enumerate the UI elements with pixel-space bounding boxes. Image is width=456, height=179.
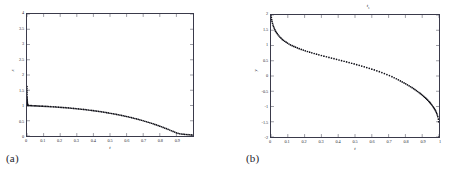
x-tick-label: 0.2: [301, 140, 306, 144]
x-tick-label: 0: [269, 140, 271, 144]
y-tick-label: 0.5: [256, 58, 268, 62]
x-tick-label: 0.1: [40, 139, 45, 143]
x-tick-label: 0.6: [369, 140, 374, 144]
x-axis-label-b: t: [354, 146, 355, 151]
scatter-plot-a: [27, 14, 193, 136]
x-tick-label: 0.3: [318, 140, 323, 144]
y-tick-label: 4: [12, 11, 24, 15]
plot-title-subscript: s: [368, 6, 369, 10]
plot-title-b: ts: [367, 3, 370, 10]
x-tick-label: 0.9: [175, 139, 180, 143]
y-axis-label-b: y: [253, 69, 258, 71]
x-tick-label: 0.7: [386, 140, 391, 144]
panel-caption-a: (a): [6, 152, 19, 164]
y-tick-label: 1: [12, 104, 24, 108]
x-tick-label: 0.4: [335, 140, 340, 144]
panel-caption-b: (b): [246, 152, 259, 164]
x-tick-label: 0.8: [403, 140, 408, 144]
y-tick-label: 3.5: [12, 26, 24, 30]
x-tick-label: 0.3: [74, 139, 79, 143]
x-tick-label: 0.9: [420, 140, 425, 144]
y-tick-label: 1.5: [12, 88, 24, 92]
figure-two-panel: x t (a) 00.10.20.30.40.50.60.70.80.900.5…: [0, 0, 456, 179]
x-axis-label-a: t: [109, 145, 110, 150]
y-tick-label: 2: [12, 73, 24, 77]
y-tick-label: -2: [256, 136, 268, 140]
plot-area-a: [26, 13, 194, 137]
y-tick-label: 0: [12, 135, 24, 139]
x-tick-label: 0.8: [158, 139, 163, 143]
panel-a: x t (a) 00.10.20.30.40.50.60.70.80.900.5…: [0, 0, 228, 179]
x-tick-label: 0.1: [284, 140, 289, 144]
x-tick-label: 0.6: [124, 139, 129, 143]
y-tick-label: 2.5: [12, 57, 24, 61]
y-tick-label: -0.5: [256, 89, 268, 93]
y-tick-label: -1: [256, 105, 268, 109]
scatter-plot-b: [271, 15, 439, 137]
y-tick-label: 1.5: [256, 27, 268, 31]
x-tick-label: 1: [439, 140, 441, 144]
x-tick-label: 0.7: [141, 139, 146, 143]
y-tick-label: 0.5: [12, 119, 24, 123]
y-tick-label: 1: [256, 43, 268, 47]
x-tick-label: 0: [25, 139, 27, 143]
y-tick-label: 0: [256, 74, 268, 78]
x-tick-label: 0.4: [91, 139, 96, 143]
panel-b: ts y t (b) 00.10.20.30.40.50.60.70.80.91…: [228, 0, 456, 179]
x-tick-label: 0.2: [57, 139, 62, 143]
y-tick-label: -1.5: [256, 120, 268, 124]
plot-area-b: [270, 14, 440, 138]
y-tick-label: 3: [12, 42, 24, 46]
y-axis-label-a: x: [10, 69, 15, 71]
x-tick-label: 0.5: [352, 140, 357, 144]
y-tick-label: 2: [256, 12, 268, 16]
x-tick-label: 0.5: [107, 139, 112, 143]
